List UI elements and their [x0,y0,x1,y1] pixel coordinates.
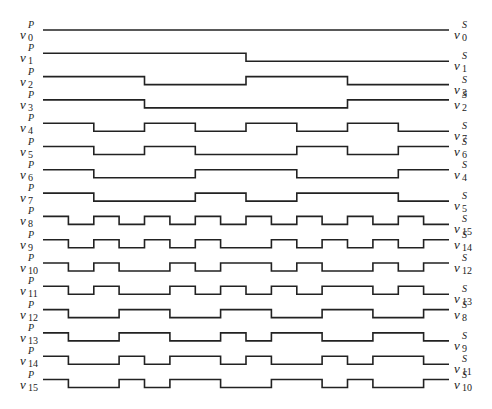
label-variable: v [20,237,26,252]
label-subscript: 14 [28,359,38,369]
left-label-7: vP7 [20,191,26,204]
label-variable: v [20,353,26,368]
label-superscript: P [28,90,34,100]
label-superscript: P [28,160,34,170]
label-superscript: P [28,113,34,123]
label-subscript: 4 [462,173,467,183]
label-subscript: 15 [28,383,38,393]
label-variable: v [20,213,26,228]
right-label-8: vS15 [454,222,460,235]
label-subscript: 6 [462,150,467,160]
right-label-13: vS9 [454,339,460,352]
right-label-0: vS0 [454,28,460,41]
waveforms [0,0,492,409]
label-superscript: P [28,137,34,147]
label-variable: v [454,198,460,213]
left-label-3: vP3 [20,98,26,111]
waveform-row-7 [43,193,449,201]
left-label-5: vP5 [20,145,26,158]
left-label-6: vP6 [20,168,26,181]
label-superscript: S [462,160,467,170]
label-variable: v [454,128,460,143]
right-label-9: vS14 [454,238,460,251]
right-label-15: vS10 [454,378,460,391]
right-label-2: vS3 [454,83,460,96]
right-label-14: vS11 [454,362,460,375]
label-superscript: P [28,346,34,356]
right-label-4: vS7 [454,129,460,142]
label-variable: v [454,260,460,275]
label-subscript: 2 [462,103,467,113]
left-label-11: vP11 [20,284,26,297]
label-subscript: 8 [462,313,467,323]
label-superscript: S [462,121,467,131]
left-label-0: vP0 [20,28,26,41]
right-label-3: vS2 [454,98,460,111]
left-label-4: vP4 [20,121,26,134]
waveform-row-6 [43,170,449,178]
left-label-15: vP15 [20,378,26,391]
waveform-row-10 [43,263,449,271]
right-label-7: vS5 [454,199,460,212]
waveform-row-15 [43,380,449,388]
label-superscript: S [462,300,467,310]
label-superscript: S [462,75,467,85]
label-variable: v [454,144,460,159]
label-variable: v [20,260,26,275]
right-label-12: vS8 [454,308,460,321]
right-label-11: vS13 [454,292,460,305]
label-variable: v [20,330,26,345]
waveform-row-8 [43,216,449,224]
waveform-row-12 [43,310,449,318]
label-superscript: P [28,43,34,53]
waveform-row-1 [43,53,449,61]
label-variable: v [454,237,460,252]
waveform-row-3 [43,100,449,108]
label-variable: v [20,120,26,135]
label-superscript: S [462,253,467,263]
left-label-12: vP12 [20,308,26,321]
left-label-13: vP13 [20,331,26,344]
label-superscript: P [28,323,34,333]
right-label-10: vS12 [454,261,460,274]
label-variable: v [454,167,460,182]
label-superscript: P [28,370,34,380]
label-subscript: 1 [28,56,33,66]
label-superscript: S [462,331,467,341]
waveform-row-4 [43,123,449,131]
label-variable: v [454,377,460,392]
label-subscript: 12 [462,266,472,276]
label-superscript: P [28,276,34,286]
label-subscript: 10 [462,383,472,393]
label-superscript: P [28,253,34,263]
label-subscript: 0 [462,33,467,43]
label-superscript: P [28,183,34,193]
label-variable: v [20,144,26,159]
label-subscript: 4 [28,126,33,136]
label-variable: v [454,27,460,42]
waveform-row-5 [43,147,449,155]
waveform-row-9 [43,240,449,248]
label-superscript: S [462,137,467,147]
waveform-row-2 [43,77,449,85]
right-label-6: vS4 [454,168,460,181]
label-subscript: 11 [28,289,38,299]
label-variable: v [20,97,26,112]
label-variable: v [454,82,460,97]
left-label-2: vP2 [20,75,26,88]
label-superscript: P [28,20,34,30]
label-superscript: S [462,90,467,100]
label-superscript: S [462,214,467,224]
label-superscript: S [462,230,467,240]
label-superscript: S [462,370,467,380]
label-superscript: S [462,20,467,30]
label-superscript: S [462,284,467,294]
left-label-14: vP14 [20,354,26,367]
label-subscript: 8 [28,219,33,229]
label-variable: v [20,50,26,65]
label-variable: v [454,58,460,73]
label-variable: v [454,361,460,376]
label-subscript: 1 [462,64,467,74]
label-variable: v [20,377,26,392]
label-variable: v [20,283,26,298]
